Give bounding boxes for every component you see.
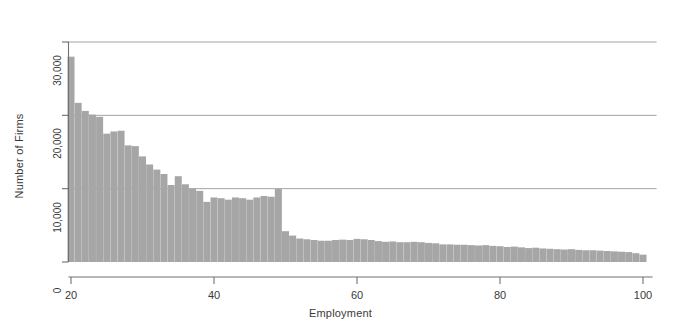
histogram-bar xyxy=(332,240,339,262)
histogram-bar xyxy=(160,174,167,262)
histogram-bar xyxy=(239,198,246,262)
histogram-bar xyxy=(182,184,189,262)
histogram-bar xyxy=(318,241,325,262)
x-axis-label: Employment xyxy=(0,307,681,319)
histogram-bar xyxy=(246,200,253,262)
histogram-bar xyxy=(253,197,260,262)
histogram-bar xyxy=(110,131,117,262)
x-tick-label-60: 60 xyxy=(337,289,377,301)
histogram-bar xyxy=(597,251,604,262)
histogram-bar xyxy=(282,231,289,262)
histogram-bar xyxy=(497,246,504,262)
histogram-bar xyxy=(96,117,103,262)
histogram-bar xyxy=(575,250,582,262)
histogram-bar xyxy=(568,249,575,262)
histogram-bar xyxy=(375,241,382,262)
histogram-bar xyxy=(518,247,525,262)
histogram-bar xyxy=(547,249,554,262)
histogram-bar xyxy=(103,134,110,262)
histogram-bar xyxy=(554,249,561,262)
histogram-bar xyxy=(640,255,647,262)
histogram-bar xyxy=(311,240,318,262)
x-tick-label-20: 20 xyxy=(51,289,91,301)
histogram-bar xyxy=(468,245,475,262)
x-tick-label-40: 40 xyxy=(194,289,234,301)
histogram-bar xyxy=(389,241,396,262)
histogram-bar xyxy=(589,250,596,262)
histogram-bar xyxy=(396,242,403,262)
histogram-bar xyxy=(368,240,375,262)
x-tick-label-100: 100 xyxy=(623,289,663,301)
histogram-bar xyxy=(275,189,282,262)
histogram-bar xyxy=(339,240,346,262)
histogram-bar xyxy=(132,146,139,262)
histogram-bar xyxy=(118,131,125,262)
histogram-bar xyxy=(89,115,96,262)
histogram-bar xyxy=(196,191,203,262)
histogram-bar xyxy=(404,242,411,262)
histogram-bar xyxy=(539,248,546,262)
histogram-bar xyxy=(146,164,153,262)
histogram-bar xyxy=(489,246,496,262)
histogram-bar xyxy=(175,176,182,262)
y-axis-label: Number of Firms xyxy=(13,96,25,216)
y-tick-label-30000: 30,000 xyxy=(52,41,63,101)
histogram-bar xyxy=(168,185,175,262)
histogram-bar xyxy=(504,247,511,262)
histogram-bar xyxy=(525,248,532,262)
histogram-bar xyxy=(532,248,539,262)
histogram-bar xyxy=(511,247,518,262)
histogram-bar xyxy=(439,244,446,262)
histogram-bar xyxy=(153,170,160,262)
histogram-bar xyxy=(261,196,268,262)
histogram-bar xyxy=(361,239,368,262)
histogram-bar xyxy=(446,244,453,262)
histogram-plot-area xyxy=(0,0,681,335)
histogram-bar xyxy=(382,242,389,262)
histogram-bar xyxy=(203,202,210,262)
histogram-bar xyxy=(346,240,353,262)
histogram-bar xyxy=(618,252,625,262)
histogram-bar xyxy=(232,197,239,262)
histogram-bar xyxy=(303,239,310,262)
histogram-figure: Number of Firms Employment 010,00020,000… xyxy=(0,0,681,335)
histogram-bar xyxy=(632,253,639,262)
histogram-bar xyxy=(604,251,611,262)
histogram-bar xyxy=(296,239,303,262)
histogram-bar xyxy=(139,156,146,262)
histogram-bar xyxy=(454,245,461,262)
histogram-bar xyxy=(125,145,132,262)
histogram-bar xyxy=(411,242,418,262)
y-tick-label-20000: 20,000 xyxy=(52,114,63,174)
histogram-bar xyxy=(189,189,196,262)
histogram-bar xyxy=(418,242,425,262)
histogram-bar xyxy=(82,111,89,262)
histogram-bar xyxy=(482,245,489,262)
histogram-bar xyxy=(425,243,432,262)
y-axis-label-container: Number of Firms xyxy=(8,0,30,335)
y-tick-label-10000: 10,000 xyxy=(52,187,63,247)
histogram-bar xyxy=(325,241,332,262)
histogram-bar xyxy=(461,245,468,262)
histogram-bar xyxy=(475,246,482,263)
histogram-bar xyxy=(582,250,589,262)
histogram-bar xyxy=(75,103,82,262)
histogram-bar xyxy=(354,239,361,262)
histogram-bar xyxy=(225,200,232,262)
histogram-bar xyxy=(289,236,296,262)
histogram-bar xyxy=(211,197,218,262)
histogram-bar xyxy=(611,251,618,262)
x-tick-label-80: 80 xyxy=(480,289,520,301)
histogram-bar xyxy=(218,198,225,262)
histogram-bar xyxy=(268,197,275,262)
histogram-bar xyxy=(625,252,632,262)
histogram-bar xyxy=(561,250,568,262)
histogram-bar xyxy=(432,243,439,262)
